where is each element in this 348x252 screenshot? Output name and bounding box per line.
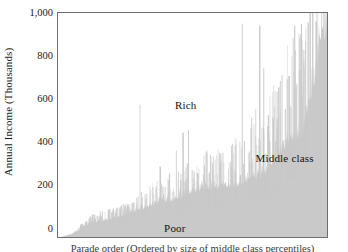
y-tick-600: 600 <box>14 93 53 104</box>
income-parade-series <box>58 13 327 237</box>
annotation-rich: Rich <box>175 99 197 111</box>
annotation-middle-class: Middle class <box>255 152 313 164</box>
chart-figure: Annual Income (Thousands) 1,000 800 600 … <box>0 0 348 252</box>
y-tick-400: 400 <box>14 136 53 147</box>
y-tick-200: 200 <box>14 179 53 190</box>
y-tick-0: 0 <box>14 223 53 234</box>
y-axis-tick-labels: 1,000 800 600 400 200 0 <box>14 0 53 252</box>
figure-caption: Parade order (Ordered by size of middle … <box>57 243 328 252</box>
annotation-poor: Poor <box>164 222 186 234</box>
plot-area <box>57 12 328 238</box>
y-tick-1000: 1,000 <box>14 7 53 18</box>
y-tick-800: 800 <box>14 50 53 61</box>
